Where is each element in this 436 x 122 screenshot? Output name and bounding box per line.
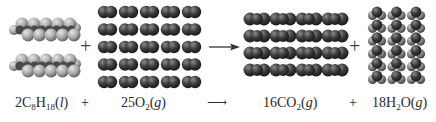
plus-sign-top-1: +	[80, 36, 91, 56]
formula-part: H	[36, 95, 46, 110]
o2-molecule	[119, 76, 138, 88]
o2-molecule	[140, 76, 159, 88]
formula-part: H	[386, 95, 396, 110]
co2-molecule	[322, 13, 349, 26]
co2-molecule	[322, 64, 349, 77]
h2o-molecule	[368, 45, 386, 59]
octane-coefficient: 2	[15, 95, 22, 110]
reaction-arrow-eq: ⟶	[207, 94, 227, 112]
co2-molecule	[270, 13, 297, 26]
h2o-molecule	[387, 45, 405, 59]
h2o-molecule	[368, 19, 386, 32]
o2-molecule	[161, 6, 180, 18]
formula-part: CO	[277, 95, 296, 110]
paren: )	[313, 95, 318, 110]
o2-molecule	[182, 23, 201, 35]
h2o-molecule	[387, 7, 405, 20]
h2o-molecule	[387, 71, 405, 85]
co2-molecule	[244, 13, 271, 26]
water-formula: 18H2O(g)	[372, 94, 427, 112]
co2-molecule	[244, 64, 271, 77]
co2-molecule	[296, 30, 323, 43]
co2-molecule	[296, 64, 323, 77]
co2-molecule	[296, 47, 323, 60]
o2-molecule	[98, 58, 117, 70]
h2o-molecule	[407, 71, 425, 85]
o2-molecule	[119, 23, 138, 35]
o2-molecule	[140, 58, 159, 70]
h2o-molecule	[387, 19, 405, 32]
reaction-arrow-top	[209, 44, 240, 51]
h2o-molecule	[368, 71, 386, 85]
co2-molecule	[322, 47, 349, 60]
o2-molecule	[119, 6, 138, 18]
co2-coefficient: 16	[263, 95, 277, 110]
h2o-molecule	[407, 45, 425, 59]
h2o-molecule	[368, 58, 386, 71]
h2o-molecule	[407, 7, 425, 20]
formula-part: O	[135, 95, 145, 110]
octane-formula: 2C8H18(l)	[15, 94, 68, 112]
formula-subscript: 18	[46, 102, 55, 112]
water-coefficient: 18	[372, 95, 386, 110]
h2o-molecule	[368, 7, 386, 20]
h2o-molecule	[407, 32, 425, 46]
formula-part: O	[401, 95, 411, 110]
o2-molecule	[182, 76, 201, 88]
formula-part: C	[22, 95, 31, 110]
o2-molecule	[161, 41, 180, 53]
o2-molecule	[119, 58, 138, 70]
o2-molecule	[98, 41, 117, 53]
o2-molecule	[140, 41, 159, 53]
paren: )	[64, 95, 69, 110]
o2-molecule	[182, 58, 201, 70]
h2o-molecule	[407, 58, 425, 71]
h2o-molecule	[387, 32, 405, 46]
octane-molecule	[9, 54, 81, 78]
paren: )	[161, 95, 166, 110]
o2-molecule	[119, 41, 138, 53]
o2-molecule	[161, 23, 180, 35]
paren: )	[422, 95, 427, 110]
o2-molecule	[98, 23, 117, 35]
oxygen-coefficient: 25	[121, 95, 135, 110]
h2o-molecule	[387, 58, 405, 71]
plus-sign-top-2: +	[349, 36, 360, 56]
o2-molecule	[140, 23, 159, 35]
plus-sign-eq-1: +	[81, 94, 89, 112]
octane-molecules	[9, 18, 81, 78]
o2-molecule	[182, 6, 201, 18]
h2o-molecule	[407, 19, 425, 32]
carbon-dioxide-molecules	[244, 13, 349, 77]
co2-molecule	[244, 30, 271, 43]
state-label: g	[306, 95, 313, 110]
o2-molecule	[182, 41, 201, 53]
molecular-scene	[0, 0, 436, 90]
plus-sign-eq-2: +	[349, 94, 357, 112]
o2-molecule	[98, 6, 117, 18]
co2-formula: 16CO2(g)	[263, 94, 317, 112]
octane-molecule	[9, 18, 81, 42]
oxygen-formula: 25O2(g)	[121, 94, 166, 112]
o2-molecule	[98, 76, 117, 88]
co2-molecule	[296, 13, 323, 26]
h2o-molecule	[368, 32, 386, 46]
co2-molecule	[270, 47, 297, 60]
oxygen-molecules	[98, 6, 201, 88]
co2-molecule	[244, 47, 271, 60]
co2-molecule	[270, 30, 297, 43]
o2-molecule	[161, 76, 180, 88]
co2-molecule	[322, 30, 349, 43]
o2-molecule	[140, 6, 159, 18]
o2-molecule	[161, 58, 180, 70]
co2-molecule	[270, 64, 297, 77]
water-molecules	[368, 7, 425, 85]
